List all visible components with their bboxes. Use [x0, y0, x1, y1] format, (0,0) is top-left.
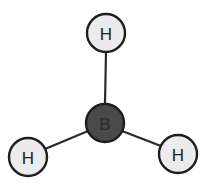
atom-h-left: H [9, 138, 47, 176]
bond-b-h-top [105, 52, 106, 104]
bh3-diagram: H B H H [0, 0, 210, 188]
atom-b-central: B [86, 104, 124, 142]
atom-label: H [172, 146, 184, 165]
bond-b-h-right [122, 131, 161, 146]
bond-b-h-left [45, 131, 88, 149]
atom-label: H [100, 25, 112, 44]
atom-label: H [22, 149, 34, 168]
atom-label: B [99, 115, 110, 134]
atom-h-top: H [87, 14, 125, 52]
atom-h-right: H [159, 135, 197, 173]
